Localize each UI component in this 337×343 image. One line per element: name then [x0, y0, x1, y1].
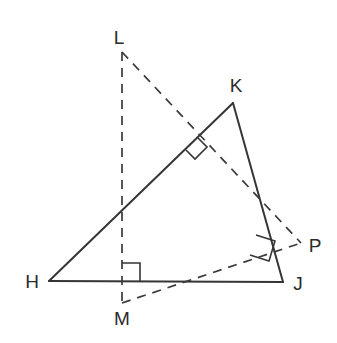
side-KJ — [233, 103, 283, 282]
vertex-label-M: M — [114, 308, 130, 329]
right-angle-at-HJ-icon — [122, 263, 140, 281]
side-HJ — [49, 281, 283, 282]
vertex-label-L: L — [114, 27, 125, 48]
geometry-diagram-canvas: H J K L M P — [0, 0, 337, 343]
vertex-label-H: H — [25, 271, 39, 292]
vertex-label-K: K — [230, 75, 243, 96]
right-angle-at-HK-icon — [186, 138, 207, 159]
segment-LP — [122, 52, 301, 243]
vertex-label-P: P — [309, 235, 322, 256]
vertex-label-J: J — [293, 273, 303, 294]
side-HK — [49, 103, 233, 281]
geometry-figure: H J K L M P — [0, 0, 337, 343]
segment-MP — [122, 243, 301, 303]
